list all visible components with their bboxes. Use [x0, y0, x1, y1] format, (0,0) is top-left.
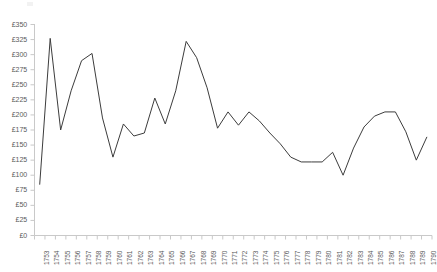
x-tick-label: 1757 — [85, 251, 92, 265]
x-tick-label: 1775 — [273, 251, 280, 265]
x-tick-label: 1779 — [315, 251, 322, 265]
x-tick-label: 1788 — [409, 251, 416, 265]
x-tick-label: 1776 — [283, 251, 290, 265]
y-tick-label: £150 — [0, 141, 27, 148]
y-tick-label: £275 — [0, 66, 27, 73]
x-tick-label: 1786 — [388, 251, 395, 265]
x-tick-label: 1782 — [346, 251, 353, 265]
x-tick-label: 1777 — [294, 251, 301, 265]
x-tick-label: 1761 — [126, 251, 133, 265]
y-tick-label: £100 — [0, 171, 27, 178]
x-tick-label: 1784 — [367, 251, 374, 265]
x-tick-label: 1783 — [357, 251, 364, 265]
y-tick-label: £25 — [0, 216, 27, 223]
y-tick-label: £200 — [0, 111, 27, 118]
y-tick-marks — [31, 25, 35, 236]
y-tick-label: £350 — [0, 21, 27, 28]
x-tick-label: 1770 — [221, 251, 228, 265]
x-tick-label: 1768 — [200, 251, 207, 265]
x-tick-label: 1771 — [231, 251, 238, 265]
x-tick-label: 1759 — [105, 251, 112, 265]
x-tick-label: 1773 — [252, 251, 259, 265]
y-tick-label: £0 — [0, 232, 27, 239]
x-tick-label: 1781 — [336, 251, 343, 265]
x-tick-label: 1764 — [158, 251, 165, 265]
y-tick-label: £75 — [0, 186, 27, 193]
x-tick-label: 1762 — [137, 251, 144, 265]
x-tick-label: 1767 — [189, 251, 196, 265]
x-tick-label: 1765 — [168, 251, 175, 265]
x-tick-label: 1758 — [95, 251, 102, 265]
x-tick-label: 1756 — [74, 251, 81, 265]
x-tick-label: 1787 — [398, 251, 405, 265]
y-tick-label: £225 — [0, 96, 27, 103]
series-line — [40, 38, 427, 184]
x-tick-label: 1754 — [53, 251, 60, 265]
x-tick-label: 1772 — [241, 251, 248, 265]
y-tick-label: £50 — [0, 201, 27, 208]
data-series-group — [40, 38, 427, 184]
y-tick-label: £125 — [0, 156, 27, 163]
x-tick-label: 1769 — [210, 251, 217, 265]
y-tick-label: £250 — [0, 81, 27, 88]
y-tick-label: £300 — [0, 51, 27, 58]
x-tick-label: 1766 — [179, 251, 186, 265]
x-tick-label: 1780 — [325, 251, 332, 265]
x-tick-label: 1785 — [377, 251, 384, 265]
x-tick-label: 1760 — [116, 251, 123, 265]
x-tick-label: 1778 — [304, 251, 311, 265]
x-tick-label: 1755 — [64, 251, 71, 265]
x-tick-label: 1774 — [262, 251, 269, 265]
axis-lines — [35, 24, 433, 236]
y-tick-label: £175 — [0, 126, 27, 133]
y-tick-label: £325 — [0, 36, 27, 43]
x-tick-label: 1753 — [43, 251, 50, 265]
x-tick-label: 1789 — [419, 251, 426, 265]
x-tick-label: 1790 — [430, 251, 437, 265]
x-tick-marks — [35, 236, 433, 240]
x-tick-label: 1763 — [147, 251, 154, 265]
